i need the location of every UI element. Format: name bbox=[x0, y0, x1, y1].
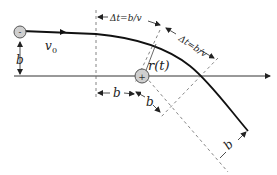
diagram-canvas: - + v 0 b r(t) Δt=b/v Δt=b/v b b b bbox=[0, 0, 277, 175]
direction-arrow-icon bbox=[60, 29, 66, 35]
delta-t-diagonal-label: Δt=b/v bbox=[176, 33, 209, 59]
delta-t-top-arrow-end bbox=[148, 21, 160, 25]
positive-charge: + bbox=[135, 69, 149, 83]
b-end-arrow-tail bbox=[220, 152, 226, 158]
b-diagonal-arrow-left bbox=[136, 92, 145, 97]
svg-text:+: + bbox=[138, 72, 146, 82]
b-end-arrow bbox=[238, 132, 246, 140]
b-horizontal-label: b bbox=[113, 86, 121, 100]
negative-charge: - bbox=[14, 26, 26, 38]
b-horizontal-arrow-right bbox=[124, 93, 134, 94]
velocity-label: v bbox=[45, 39, 52, 53]
dashed-line-radial bbox=[145, 76, 228, 172]
b-diagonal-mid-label: b bbox=[146, 95, 154, 109]
position-label: r(t) bbox=[148, 58, 170, 73]
velocity-subscript: 0 bbox=[52, 46, 57, 55]
scattering-diagram: - + v 0 b r(t) Δt=b/v Δt=b/v b b b bbox=[0, 0, 277, 175]
b-diagonal-arrow-right bbox=[153, 105, 160, 112]
delta-t-top-label: Δt=b/v bbox=[109, 13, 142, 23]
impact-parameter-label: b bbox=[16, 53, 24, 67]
b-diagonal-end-label: b bbox=[221, 137, 236, 152]
svg-text:-: - bbox=[19, 28, 22, 37]
delta-t-diagonal-arrow-start bbox=[166, 28, 176, 34]
